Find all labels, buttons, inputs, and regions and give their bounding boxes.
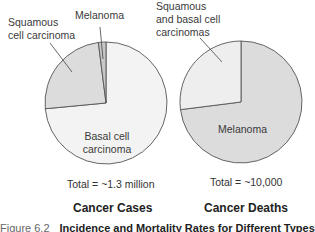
label-line: carcinoma (77, 143, 137, 156)
pie-slice-squamous-and-basal-cell-carcinomas (180, 41, 241, 110)
figure-caption-text: Incidence and Mortality Rates for Differ… (60, 222, 315, 232)
title-cancer-cases: Cancer Cases (73, 201, 152, 215)
figure-number: Figure 6.2 (0, 222, 50, 232)
label-line: and basal cell (156, 13, 220, 26)
label-basal-cell-carcinoma: Basal cell carcinoma (77, 130, 137, 156)
figure-caption: Figure 6.2Incidence and Mortality Rates … (0, 222, 315, 232)
label-line: Basal cell (77, 130, 137, 143)
pie-slice-squamous-cell-carcinoma (45, 42, 106, 108)
label-line: carcinomas (156, 26, 220, 39)
pie-cancer-deaths (180, 41, 302, 163)
label-squamous-basal-carcinomas: Squamous and basal cell carcinomas (156, 0, 220, 39)
label-line: Squamous (8, 16, 75, 29)
label-melanoma-deaths: Melanoma (218, 123, 267, 136)
label-line: Squamous (156, 0, 220, 13)
title-cancer-deaths: Cancer Deaths (204, 201, 288, 215)
total-cases: Total = ~1.3 million (67, 178, 155, 190)
label-squamous-cell-carcinoma: Squamous cell carcinoma (8, 16, 75, 42)
label-line: cell carcinoma (8, 29, 75, 42)
total-deaths: Total = ~10,000 (210, 176, 282, 188)
label-melanoma-cases: Melanoma (75, 9, 124, 22)
